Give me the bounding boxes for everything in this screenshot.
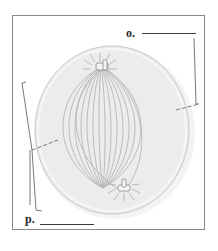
label-p: p. (25, 213, 35, 225)
answer-line-p[interactable] (40, 224, 94, 225)
answer-line-o[interactable] (142, 33, 196, 34)
cell-body (35, 46, 195, 219)
label-o: o. (126, 27, 135, 39)
